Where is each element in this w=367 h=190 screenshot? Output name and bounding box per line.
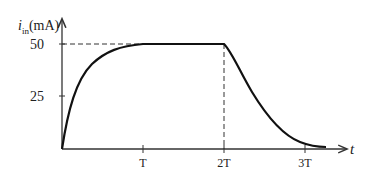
current-curve: [62, 44, 326, 149]
x-tick-label-3T: 3T: [298, 156, 312, 170]
x-axis-label: t: [350, 141, 355, 157]
chart: iin(mA) 50 25 T 2T 3T t: [0, 0, 367, 190]
x-tick-label-T: T: [139, 156, 147, 170]
x-tick-label-2T: 2T: [217, 156, 231, 170]
y-tick-label-50: 50: [30, 37, 44, 52]
y-axis-label: iin(mA): [18, 18, 60, 36]
y-tick-label-25: 25: [30, 89, 44, 104]
